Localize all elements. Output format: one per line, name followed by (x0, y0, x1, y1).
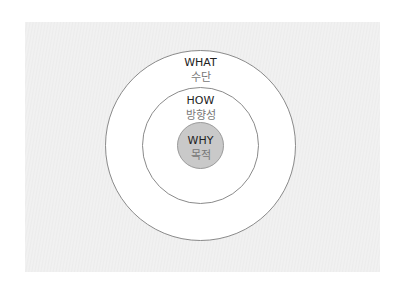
how-label: HOW (0, 95, 401, 106)
what-label: WHAT (0, 57, 401, 68)
how-label-ko: 방향성 (0, 110, 401, 121)
why-label-ko: 목적 (0, 150, 401, 161)
what-label-ko: 수단 (0, 72, 401, 83)
why-label: WHY (0, 135, 401, 146)
